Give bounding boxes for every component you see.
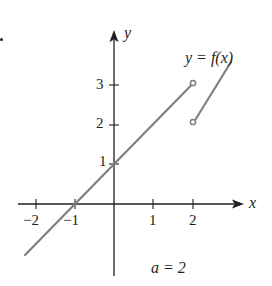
x-axis [18, 199, 244, 209]
open-circle-2-3 [190, 80, 195, 85]
open-circle-2-2 [190, 119, 195, 124]
x-axis-label: x [249, 195, 256, 211]
parameter-note: a = 2 [151, 260, 186, 276]
x-tick-label-1: 1 [149, 213, 157, 228]
y-axis [109, 30, 119, 276]
y-axis-label: y [124, 25, 131, 41]
function-plot [0, 0, 272, 286]
y-tick-label-1: 1 [99, 154, 107, 169]
x-tick-label-2: 2 [189, 213, 197, 228]
curve-right-branch [196, 62, 232, 120]
curve-left-branch [25, 86, 191, 255]
y-tick-label-2: 2 [96, 116, 104, 131]
x-tick-label-neg2: −2 [23, 213, 39, 228]
x-tick-label-neg1: −1 [63, 213, 79, 228]
curve-label: y = f(x) [185, 50, 233, 66]
y-tick-label-3: 3 [96, 77, 104, 92]
